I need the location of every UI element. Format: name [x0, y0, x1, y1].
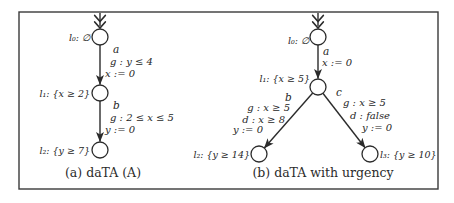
transition-a-reset-label: x := 0	[322, 57, 353, 68]
state-l1-label: l₁: {x ≥ 2}	[39, 88, 90, 99]
caption-a: (a) daTA (A)	[65, 165, 141, 180]
transition-b-reset-label: y := 0	[232, 124, 264, 135]
transition-c-guard-label: g : x ≥ 5	[343, 97, 386, 108]
transition-b-guard-label: g : x ≥ 5	[247, 102, 290, 113]
transition-c-reset-label: y := 0	[361, 122, 393, 133]
transition-a-action-label: a	[323, 45, 329, 57]
transition-a-reset-label: x := 0	[105, 68, 136, 79]
state-l2-label: l₂: {y ≥ 7}	[39, 145, 90, 156]
figure: l₀: ∅ l₁: {x ≥ 2} l₂: {y ≥ 7} a g : y ≤ …	[0, 0, 454, 203]
automaton-a: l₀: ∅ l₁: {x ≥ 2} l₂: {y ≥ 7} a g : y ≤ …	[39, 13, 174, 180]
state-l0-label: l₀: ∅	[69, 32, 91, 43]
state-l3	[362, 146, 378, 162]
automaton-b: l₀: ∅ l₁: {x ≥ 5} l₂: {y ≥ 14} l₃: {y ≥ …	[193, 13, 436, 180]
state-l3-label: l₃: {y ≥ 10}	[380, 149, 437, 160]
caption-b: (b) daTA with urgency	[252, 165, 394, 180]
state-l1	[92, 85, 108, 101]
state-l1	[310, 79, 326, 95]
state-l2-label: l₂: {y ≥ 14}	[193, 149, 250, 160]
transition-b-reset-label: y := 0	[104, 124, 136, 135]
transition-a-action-label: a	[113, 43, 119, 55]
state-l1-label: l₁: {x ≥ 5}	[259, 73, 310, 84]
automata-diagram: l₀: ∅ l₁: {x ≥ 2} l₂: {y ≥ 7} a g : y ≤ …	[0, 0, 454, 203]
transition-b-guard-label: g : 2 ≤ x ≤ 5	[110, 112, 174, 123]
state-l2	[251, 146, 267, 162]
transition-a-guard-label: g : y ≤ 4	[110, 56, 153, 67]
state-l0	[310, 29, 326, 45]
state-l0-label: l₀: ∅	[288, 35, 310, 46]
state-l2	[92, 142, 108, 158]
transition-c-action-label: c	[336, 86, 342, 98]
state-l0	[92, 29, 108, 45]
transition-c-deadline-label: d : false	[350, 110, 390, 121]
transition-b-action-label: b	[113, 99, 120, 111]
